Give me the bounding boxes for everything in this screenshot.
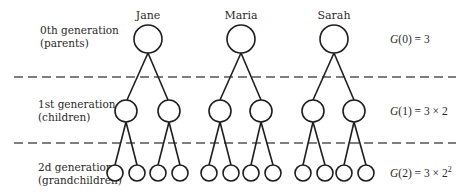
grandchild-node <box>358 165 374 181</box>
formula-gen2: G(2) = 3 × 22 <box>390 165 452 180</box>
grandchild-node <box>265 165 281 181</box>
grandchild-node <box>150 165 166 181</box>
gen0-subtitle: (parents) <box>40 37 89 49</box>
parent-node-jane <box>134 25 162 53</box>
child-node <box>209 100 231 122</box>
child-node <box>115 100 137 122</box>
generation-tree-diagram: 0th generation (parents) 1st generation … <box>0 0 468 194</box>
grandchild-node <box>107 165 123 181</box>
formula-gen0: G(0) = 3 <box>390 33 430 46</box>
grandchild-node <box>317 165 333 181</box>
child-node <box>302 100 324 122</box>
grandchild-node <box>223 165 239 181</box>
grandchild-node <box>172 165 188 181</box>
formula-gen1: G(1) = 3 × 2 <box>390 105 448 118</box>
gen2-title: 2d generation <box>38 161 113 173</box>
gen0-title: 0th generation <box>40 24 119 36</box>
gen1-subtitle: (children) <box>38 111 90 123</box>
grandchild-node <box>201 165 217 181</box>
child-node <box>250 100 272 122</box>
parent-node-maria <box>227 25 255 53</box>
child-node <box>343 100 365 122</box>
grandchild-node <box>243 165 259 181</box>
parent-node-sarah <box>320 25 348 53</box>
grandchild-node <box>295 165 311 181</box>
gen1-title: 1st generation <box>38 98 116 110</box>
parent-name-sarah: Sarah <box>318 9 351 22</box>
parent-name-maria: Maria <box>224 9 258 22</box>
child-node <box>158 100 180 122</box>
grandchild-node <box>336 165 352 181</box>
parent-name-jane: Jane <box>135 9 161 22</box>
grandchild-node <box>129 165 145 181</box>
